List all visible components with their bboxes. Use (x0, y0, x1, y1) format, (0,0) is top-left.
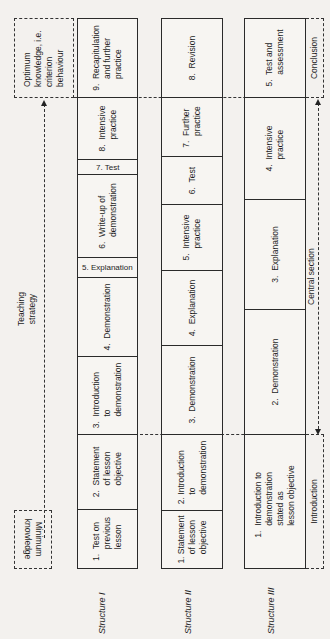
structure-1-step-2: 2. Statement of lesson objective (77, 434, 138, 510)
structure-3-step-1: 1. Introduction to demonstration stated … (244, 434, 306, 569)
structure-3-step-5: 5. Test and assessment (244, 18, 306, 98)
structure-1-label: Structure I (97, 592, 107, 634)
structure-1-step-1: 1. Test on previous lesson (77, 509, 138, 569)
strategy-arrow-line (44, 104, 45, 538)
structure-1-step-7: 7. Test (77, 159, 138, 175)
optimum-knowledge-label: Optimum knowledge, i.e. criterion behavi… (22, 29, 66, 87)
structure-2-step-1: 1. Statement of lesson objective (161, 510, 223, 569)
arrow-left-icon (315, 429, 321, 435)
structure-2-step-8: 8. Revision (161, 18, 223, 98)
central-section-line (318, 103, 319, 429)
central-section-label: Central section (306, 246, 317, 307)
structure-1-step-3: 3. Introduction to demonstration (77, 356, 138, 435)
structure-1-step-6: 6. Write-up of demonstration (77, 174, 138, 258)
structure-2-step-5: 5. Intensive practice (161, 204, 223, 271)
conclusion-section: Conclusion (306, 18, 324, 98)
structure-2-step-2: 2. Introduction to demonstration (161, 434, 223, 511)
structure-1-step-5: 5. Explanation (77, 257, 138, 278)
structure-3-step-3: 3. Explanation (244, 199, 306, 310)
structure-2-step-6: 6. Test (161, 156, 223, 205)
structure-2-step-7: 7. Further practice (161, 97, 223, 157)
structure-3-label: Structure III (266, 587, 276, 634)
structure-2-step-4: 4. Explanation (161, 270, 223, 346)
optimum-knowledge-box: Optimum knowledge, i.e. criterion behavi… (14, 18, 74, 98)
structure-1-step-8: 8. Intensive practice (77, 97, 138, 160)
teaching-strategy-label: Teaching strategy (16, 279, 38, 339)
teaching-strategy-diagram: Minimum knowledge Teaching strategy Opti… (0, 0, 330, 639)
structure-2-step-3: 3. Demonstration (161, 345, 223, 435)
introduction-section: Introduction (306, 434, 324, 569)
structure-2-label: Structure II (183, 590, 193, 634)
structure-3-step-2: 2. Demonstration (244, 309, 306, 435)
structure-3-step-4: 4. Intensive practice (244, 97, 306, 200)
arrow-right-icon (315, 99, 321, 105)
structure-1-step-9: 9. Recapitulation and further practice (77, 18, 138, 98)
structure-1-step-4: 4. Demonstration (77, 277, 138, 357)
arrow-right-icon (41, 100, 47, 106)
minimum-knowledge-box: Minimum knowledge (14, 510, 52, 569)
minimum-knowledge-label: Minimum knowledge (22, 514, 44, 566)
